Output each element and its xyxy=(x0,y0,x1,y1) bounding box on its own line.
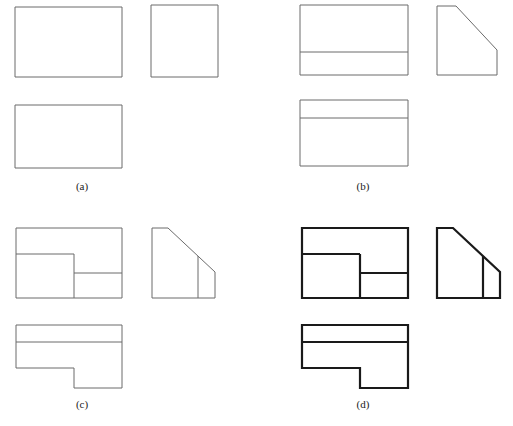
panel-d-top-view-l-shaped xyxy=(302,325,408,388)
panel-b-top-view xyxy=(300,100,408,166)
projection-panel-b xyxy=(300,5,497,166)
panel-a-top-view xyxy=(15,105,122,168)
panel-b-front-view-outline xyxy=(300,5,408,75)
panel-caption-a: (a) xyxy=(62,180,102,192)
figure-root: (a) (b) (c) (d) xyxy=(0,0,513,426)
panel-c-side-view-chamfered xyxy=(152,228,215,298)
projection-panel-c xyxy=(16,228,215,388)
panel-a-top-view-outline xyxy=(15,105,122,168)
panel-d-front-view-outline xyxy=(302,228,408,298)
panel-caption-b: (b) xyxy=(343,180,383,192)
panel-caption-d: (d) xyxy=(343,398,383,410)
panel-a-front-view xyxy=(15,7,122,77)
panel-a-front-view-outline xyxy=(15,7,122,77)
panel-b-side-view-chamfered-outline xyxy=(437,6,497,75)
panel-c-front-view xyxy=(16,228,122,298)
panel-b-front-view xyxy=(300,5,408,75)
panel-b-top-view-outline xyxy=(300,100,408,166)
panel-c-top-view-l-shaped-outline xyxy=(16,325,122,388)
panel-caption-c: (c) xyxy=(62,398,102,410)
panel-a-side-view-outline xyxy=(151,5,218,77)
panel-c-top-view-l-shaped xyxy=(16,325,122,388)
panel-c-front-view-outline xyxy=(16,228,122,298)
panel-d-top-view-l-shaped-outline xyxy=(302,325,408,388)
panel-c-side-view-chamfered-outline xyxy=(152,228,215,298)
panel-b-side-view-chamfered xyxy=(437,6,497,75)
projection-panel-a xyxy=(15,5,218,168)
panel-d-side-view-chamfered-outline xyxy=(437,228,500,298)
projection-panel-d xyxy=(302,228,500,388)
panel-a-side-view xyxy=(151,5,218,77)
orthographic-projection-figure xyxy=(0,0,513,426)
panel-d-front-view xyxy=(302,228,408,298)
panel-d-side-view-chamfered xyxy=(437,228,500,298)
